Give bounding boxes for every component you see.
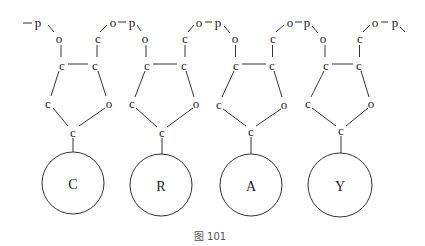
bond xyxy=(167,108,193,127)
base-label: Y xyxy=(335,179,345,194)
ring-lower-left-carbon: c xyxy=(216,97,222,112)
top-carbon: c xyxy=(270,31,276,46)
top-carbon: c xyxy=(182,31,188,46)
bond xyxy=(98,71,106,96)
base-label: A xyxy=(246,179,257,194)
ring-bottom-carbon: c xyxy=(159,125,165,140)
base-label: R xyxy=(156,179,166,194)
top-oxygen: o xyxy=(142,31,149,46)
top-carbon: c xyxy=(357,31,363,46)
bond xyxy=(311,71,324,97)
ring-bottom-carbon: c xyxy=(338,123,344,138)
bond xyxy=(53,108,68,126)
ring-oxygen: o xyxy=(193,96,200,111)
chain-end-bond xyxy=(400,27,405,32)
bond xyxy=(79,108,105,126)
chain-start: p xyxy=(23,15,54,33)
ring-left-carbon: c xyxy=(233,58,239,73)
nucleotide-unit-2: o c c c o p c o c R xyxy=(129,15,230,217)
start-phosphate: p xyxy=(35,15,42,30)
ring-lower-left-carbon: c xyxy=(129,96,135,111)
ring-oxygen: o xyxy=(368,96,375,111)
ring-left-carbon: c xyxy=(144,58,150,73)
ring-right-carbon: c xyxy=(181,58,187,73)
base-label: C xyxy=(68,177,77,192)
bond xyxy=(312,26,318,33)
bond xyxy=(188,25,194,32)
link-oxygen: o xyxy=(372,15,379,30)
ring-oxygen: o xyxy=(106,96,113,111)
bond xyxy=(363,25,370,32)
top-oxygen: o xyxy=(232,31,239,46)
bond xyxy=(136,108,157,127)
link-oxygen: o xyxy=(110,15,117,30)
bond xyxy=(276,25,284,32)
start-to-unit1-bond xyxy=(48,25,54,32)
ring-bottom-carbon: c xyxy=(248,124,254,139)
bond xyxy=(274,71,282,97)
top-carbon: c xyxy=(95,31,101,46)
bond xyxy=(346,108,368,126)
link-phosphate: p xyxy=(304,15,311,30)
ring-right-carbon: c xyxy=(269,58,275,73)
bond xyxy=(223,109,246,126)
nucleotide-unit-1: o c c c o p c o c C xyxy=(42,15,141,215)
bond xyxy=(137,25,141,31)
link-phosphate: p xyxy=(129,15,136,30)
nucleotide-chain-diagram: p o c c c o p c o c C o c c c o p c o xyxy=(0,0,425,246)
ring-right-carbon: c xyxy=(356,58,362,73)
ring-left-carbon: c xyxy=(323,58,329,73)
nucleotide-unit-4: o c c c o p c o c Y xyxy=(305,15,405,218)
ring-lower-left-carbon: c xyxy=(45,96,51,111)
bond xyxy=(186,71,194,97)
ring-left-carbon: c xyxy=(59,58,65,73)
ring-right-carbon: c xyxy=(92,58,98,73)
ring-bottom-carbon: c xyxy=(70,125,76,140)
bond xyxy=(135,71,145,97)
bond xyxy=(51,71,59,96)
top-oxygen: o xyxy=(320,31,327,46)
link-phosphate: p xyxy=(215,15,222,30)
nucleotide-unit-3: o c c c o p c o c A xyxy=(216,15,318,217)
bond xyxy=(100,25,107,32)
bond xyxy=(361,71,369,97)
figure-caption: 图 101 xyxy=(194,231,226,242)
link-oxygen: o xyxy=(196,15,203,30)
top-oxygen: o xyxy=(56,31,63,46)
ring-oxygen: o xyxy=(281,97,288,112)
link-oxygen: o xyxy=(287,15,294,30)
bond xyxy=(224,26,230,33)
ring-lower-left-carbon: c xyxy=(305,96,311,111)
bond xyxy=(222,71,234,97)
link-phosphate: p xyxy=(392,15,399,30)
bond xyxy=(312,108,336,126)
bond xyxy=(256,109,281,126)
